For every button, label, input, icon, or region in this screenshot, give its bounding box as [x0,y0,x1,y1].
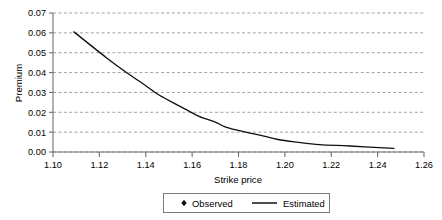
x-tick-label: 1.18 [230,160,248,170]
legend-observed-label: Observed [192,198,233,209]
x-tick-label: 1.24 [369,160,387,170]
y-tick-label: 0.06 [28,28,46,38]
x-tick-label: 1.22 [322,160,340,170]
y-tick-label: 0.03 [28,88,46,98]
x-tick-label: 1.16 [183,160,201,170]
y-tick-label: 0.02 [28,108,46,118]
legend-estimated-label: Estimated [283,198,325,209]
y-tick-label: 0.00 [28,147,46,157]
chart-legend: Observed Estimated [164,194,330,213]
premium-vs-strike-price-chart: 0.000.010.020.030.040.050.060.07 1.101.1… [0,0,442,220]
y-axis-title: Premium [13,64,24,102]
x-axis-tick-labels: 1.101.121.141.161.181.201.221.241.26 [44,160,433,170]
y-tick-label: 0.07 [28,8,46,18]
y-tick-label: 0.05 [28,48,46,58]
y-tick-label: 0.04 [28,68,46,78]
x-tick-label: 1.20 [276,160,294,170]
x-tick-label: 1.12 [90,160,108,170]
x-tick-label: 1.26 [415,160,433,170]
chart-figure: 0.000.010.020.030.040.050.060.07 1.101.1… [0,0,442,220]
x-tick-label: 1.10 [44,160,62,170]
x-axis-title: Strike price [214,174,262,185]
y-tick-label: 0.01 [28,128,46,138]
x-tick-label: 1.14 [137,160,155,170]
